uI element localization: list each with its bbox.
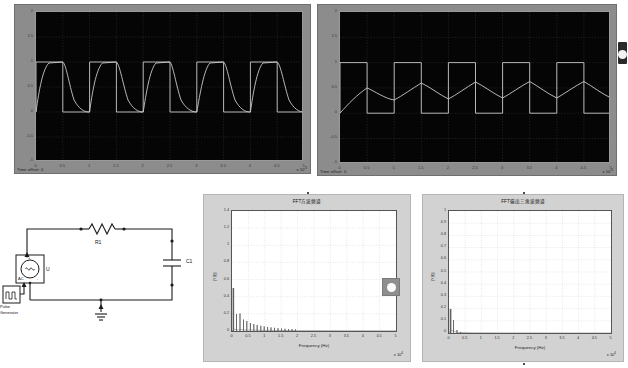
fft-triangle-ytick: 0.7 xyxy=(431,244,446,248)
scope-output-ytick: 2 xyxy=(321,8,337,13)
scope-input-ytick: 0.5 xyxy=(18,83,33,88)
scope-output-plot-area xyxy=(339,11,610,163)
fft-square-ytick: 1 xyxy=(213,242,229,246)
fft-triangle-xtick: 3 xyxy=(540,336,551,340)
scope-output-xtick: 2 xyxy=(441,165,454,170)
capacitor-label: C1 xyxy=(186,258,192,264)
fft-triangle-ytick: 0.4 xyxy=(431,281,446,285)
fft-square-window[interactable]: FFT方波频谱 xyxy=(203,194,411,362)
scope-window-input[interactable]: 2 1.5 1 0.5 0 -0.5 -1 0 0.5 1 1.5 2 2.5 … xyxy=(14,4,311,174)
fft-square-ytick: 0 xyxy=(213,328,229,332)
fft-triangle-ytick: 0.2 xyxy=(431,305,446,309)
fft-square-xtick: 0.5 xyxy=(242,334,253,338)
fft-square-xtick: 3 xyxy=(324,334,335,338)
scope-output-ytick: -1 xyxy=(321,159,337,164)
fft-triangle-ytick: 0.9 xyxy=(431,220,446,224)
fft-triangle-ylabel: |Y(f)| xyxy=(430,272,435,281)
scope-input-time-offset-label: Time offset: xyxy=(17,167,40,172)
fft-triangle-xtick: 3.5 xyxy=(556,336,567,340)
fft-triangle-ytick: 0.1 xyxy=(431,317,446,321)
fft-triangle-xlabel: Frequency (Hz) xyxy=(448,345,612,350)
scope-output-time-offset-label: Time offset: xyxy=(320,169,343,174)
fft-square-xtick: 2 xyxy=(292,334,303,338)
fft-square-axes xyxy=(231,210,397,332)
scope-input-plot-area xyxy=(35,11,303,161)
fft-square-xtick: 3.5 xyxy=(341,334,352,338)
scope-input-waveform xyxy=(36,12,303,161)
fft-square-xtick: 4.5 xyxy=(374,334,385,338)
fft-square-xtick: 2.5 xyxy=(308,334,319,338)
fft-triangle-spectrum-plot xyxy=(449,211,611,333)
source-label: U xyxy=(46,266,50,272)
scope-output-ytick: 1 xyxy=(321,59,337,64)
fft-square-x-exponent: x 104 xyxy=(394,351,403,357)
scope-output-xtick: 3 xyxy=(496,165,509,170)
scope-output-ytick: -0.5 xyxy=(321,134,337,139)
fft-triangle-xtick: 5 xyxy=(605,336,616,340)
scope-output-x-exponent: x 10-3 xyxy=(602,168,613,174)
scope-output-knob-dot[interactable] xyxy=(618,50,627,59)
scope-output-xtick: 2.5 xyxy=(469,165,482,170)
window-anchor-dot-bottom xyxy=(523,363,525,365)
scope-output-x-exponent-sup: -3 xyxy=(610,168,613,172)
scope-input-time-offset-value: 0 xyxy=(41,167,43,172)
fft-triangle-title: FFT输出三角波频谱 xyxy=(423,198,623,204)
scope-input-ytick: 2 xyxy=(18,8,33,13)
scope-input-ytick: 0 xyxy=(18,108,33,113)
scope-input-xtick: 2.5 xyxy=(163,163,176,168)
scope-input-xtick: 0.5 xyxy=(56,163,69,168)
cursor-badge-dot xyxy=(387,283,396,292)
scope-input-ytick: -1 xyxy=(18,157,33,162)
fft-square-title: FFT方波频谱 xyxy=(204,198,410,204)
fft-square-ylabel: |Y(f)| xyxy=(212,272,217,281)
fft-triangle-ytick: 0.3 xyxy=(431,293,446,297)
fft-triangle-xtick: 0 xyxy=(443,336,454,340)
fft-triangle-window[interactable]: FFT输出三角波频谱 xyxy=(422,194,624,362)
fft-triangle-ytick: 1 xyxy=(431,208,446,212)
fft-square-xtick: 1 xyxy=(259,334,270,338)
fft-square-xtick: 5 xyxy=(390,334,401,338)
fft-square-ytick: 0.4 xyxy=(213,294,229,298)
scope-input-xtick: 2 xyxy=(136,163,149,168)
fft-square-spectrum-plot xyxy=(232,211,396,331)
fft-triangle-ytick: 0.6 xyxy=(431,256,446,260)
scope-input-xtick: 4.5 xyxy=(270,163,283,168)
fft-square-xtick: 4 xyxy=(357,334,368,338)
scope-output-ytick: 1.5 xyxy=(321,33,337,38)
screenshot-root: 2 1.5 1 0.5 0 -0.5 -1 0 0.5 1 1.5 2 2.5 … xyxy=(0,0,628,368)
scope-output-waveform xyxy=(340,12,610,163)
resistor-label: R1 xyxy=(95,239,101,245)
fft-triangle-xtick: 0.5 xyxy=(459,336,470,340)
fft-triangle-xtick: 1 xyxy=(475,336,486,340)
rc-circuit-schematic xyxy=(0,200,200,368)
scope-input-xtick: 4 xyxy=(243,163,256,168)
scope-input-ytick: -0.5 xyxy=(18,133,33,138)
circuit-diagram-panel[interactable]: R1 C1 U + AC - Pulse Generator xyxy=(0,200,200,368)
fft-triangle-xtick: 2.5 xyxy=(524,336,535,340)
source-pin-minus: - xyxy=(37,276,38,281)
scope-input-xtick: 3 xyxy=(190,163,203,168)
fft-square-ytick: 1.2 xyxy=(213,225,229,229)
fft-triangle-ytick: 0 xyxy=(431,329,446,333)
scope-input-ytick: 1.5 xyxy=(18,33,33,38)
pulse-generator-label: Pulse Generator xyxy=(0,304,18,316)
fft-square-x-exponent-sup: 4 xyxy=(401,351,403,355)
scope-input-xtick: 3.5 xyxy=(217,163,230,168)
scope-output-xtick: 4.5 xyxy=(577,165,590,170)
fft-square-xlabel: Frequency (Hz) xyxy=(231,343,397,348)
scope-input-ytick: 1 xyxy=(18,58,33,63)
scope-output-xtick: 1 xyxy=(387,165,400,170)
window-anchor-dot-top xyxy=(523,192,525,194)
fft-triangle-axes xyxy=(448,210,612,334)
scope-window-output[interactable]: 2 1.5 1 0.5 0 -0.5 -1 0 0.5 1 1.5 2 2.5 … xyxy=(317,4,617,176)
scope-output-xtick: 3.5 xyxy=(523,165,536,170)
fft-square-ytick: 0.2 xyxy=(213,311,229,315)
source-pin-ac: AC xyxy=(18,276,24,281)
fft-triangle-xtick: 4 xyxy=(573,336,584,340)
scope-input-x-exponent-sup: -3 xyxy=(304,166,307,170)
scope-output-time-offset-value: 0 xyxy=(344,169,346,174)
scope-input-x-exponent: x 10-3 xyxy=(296,166,307,172)
fft-triangle-ytick: 0.8 xyxy=(431,232,446,236)
cursor-badge[interactable] xyxy=(382,278,400,296)
fft-triangle-xtick: 4.5 xyxy=(589,336,600,340)
